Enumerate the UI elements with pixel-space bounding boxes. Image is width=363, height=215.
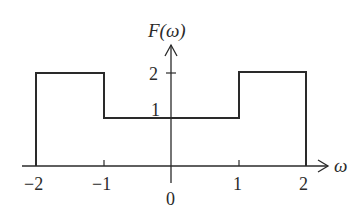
- y-tick-label-1: 1: [151, 100, 160, 120]
- x-axis-label: ω: [334, 155, 347, 176]
- x-tick-label: 0: [166, 189, 175, 209]
- x-tick-label: 1: [233, 174, 242, 194]
- chart-canvas: F(ω) ω 2 1 −2 −1 0 1 2: [0, 0, 363, 215]
- y-axis-label: F(ω): [147, 20, 186, 42]
- y-tick-label-2: 2: [149, 64, 158, 84]
- x-tick-label: −1: [92, 174, 111, 194]
- x-tick-label: −2: [24, 174, 43, 194]
- x-tick-label: 2: [299, 174, 308, 194]
